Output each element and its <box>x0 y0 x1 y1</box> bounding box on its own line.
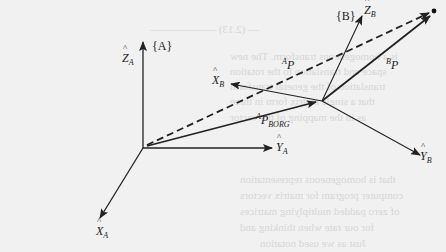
x-b-label: XB <box>212 74 224 89</box>
y-a-symbol: Y <box>276 141 283 153</box>
z-a-label: ZA <box>122 52 134 67</box>
frame-a-label: {A} <box>152 40 172 52</box>
vector-ap-borg <box>147 102 316 146</box>
y-b-axis <box>322 101 420 155</box>
y-b-subscript: B <box>427 156 432 165</box>
frame-b-label: {B} <box>336 10 356 22</box>
vector-bp-label: BP <box>386 58 398 71</box>
y-a-subscript: A <box>283 147 288 156</box>
vector-ap-symbol: P <box>287 58 294 72</box>
x-a-axis <box>100 148 143 218</box>
x-a-symbol: X <box>96 225 103 237</box>
y-b-label: YB <box>420 150 432 165</box>
point-p <box>432 9 437 14</box>
z-b-subscript: B <box>371 10 376 19</box>
vector-bp <box>322 16 430 101</box>
z-b-axis <box>322 16 362 101</box>
y-a-label: YA <box>276 141 288 156</box>
vector-ap-borg-label: APBORG <box>256 113 290 129</box>
z-a-symbol: Z <box>122 52 129 64</box>
frame-a-axes <box>100 42 272 218</box>
vector-bp-symbol: P <box>391 58 398 72</box>
z-a-subscript: A <box>129 58 134 67</box>
x-a-subscript: A <box>103 231 108 240</box>
vector-ap-label: AP <box>282 58 294 71</box>
z-b-symbol: Z <box>364 4 371 16</box>
x-a-label: XA <box>96 225 108 240</box>
vector-ap-borg-subscript: BORG <box>268 120 289 129</box>
frame-diagram <box>0 0 446 252</box>
z-b-label: ZB <box>364 4 376 19</box>
frame-b-axes <box>231 16 420 155</box>
x-b-subscript: B <box>219 80 224 89</box>
x-b-axis <box>231 84 322 101</box>
y-b-symbol: Y <box>420 150 427 162</box>
x-b-symbol: X <box>212 74 219 86</box>
